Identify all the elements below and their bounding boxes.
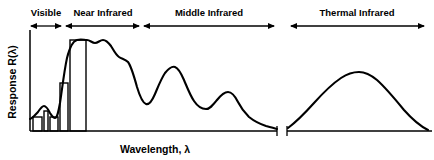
spectral-band-bars — [33, 40, 86, 131]
band-label-middle-infrared: Middle Infrared — [175, 7, 243, 18]
band-bar-1 — [33, 117, 42, 131]
chart-svg: Visible Near Infrared Middle Infrared Th… — [0, 0, 434, 160]
y-axis-label: Response R(λ) — [6, 45, 18, 119]
band-bar-2 — [44, 111, 48, 131]
band-arrow-middle-infrared — [143, 23, 275, 29]
band-label-visible: Visible — [31, 7, 61, 18]
band-bar-5 — [70, 40, 86, 131]
band-arrow-near-infrared — [65, 23, 140, 29]
response-curve-left — [30, 40, 277, 129]
band-label-thermal-infrared: Thermal Infrared — [320, 7, 395, 18]
band-arrow-visible — [30, 23, 62, 29]
spectral-response-figure: Visible Near Infrared Middle Infrared Th… — [0, 0, 434, 160]
response-curve-thermal — [288, 72, 428, 130]
band-bar-3 — [50, 117, 58, 131]
band-arrow-thermal-infrared — [290, 23, 425, 29]
x-axis-label: Wavelength, λ — [120, 143, 190, 155]
band-label-near-infrared: Near Infrared — [73, 7, 132, 18]
